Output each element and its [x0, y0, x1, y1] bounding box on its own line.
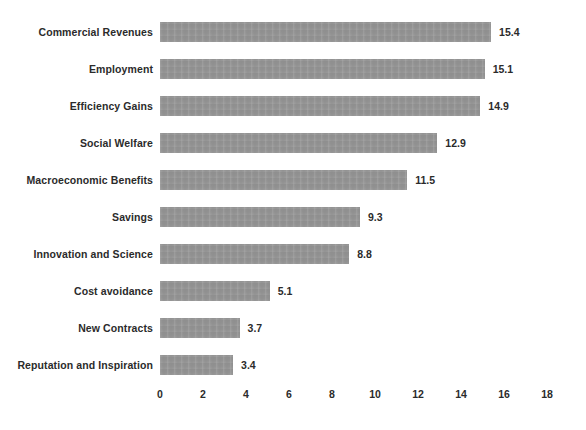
x-tick-label: 14 [455, 388, 467, 400]
x-tick-label: 16 [498, 388, 510, 400]
chart-row: Employment15.1 [0, 59, 586, 79]
chart-row: Cost avoidance5.1 [0, 281, 586, 301]
bar-texture [160, 96, 480, 116]
category-label: Savings [0, 211, 153, 223]
category-label: Macroeconomic Benefits [0, 174, 153, 186]
bar-texture [160, 244, 349, 264]
x-tick-label: 18 [541, 388, 553, 400]
chart-row: Innovation and Science8.8 [0, 244, 586, 264]
value-label: 3.4 [241, 359, 256, 371]
bar [160, 22, 491, 42]
chart-row: Social Welfare12.9 [0, 133, 586, 153]
bar-chart: Commercial Revenues15.4Employment15.1Eff… [0, 0, 586, 430]
bar [160, 318, 240, 338]
x-tick-label: 6 [286, 388, 292, 400]
bar [160, 244, 349, 264]
value-label: 15.1 [493, 63, 513, 75]
bar-texture [160, 207, 360, 227]
category-label: Innovation and Science [0, 248, 153, 260]
category-label: Commercial Revenues [0, 26, 153, 38]
x-tick-label: 12 [412, 388, 424, 400]
bar [160, 59, 485, 79]
bar-texture [160, 170, 407, 190]
bar-texture [160, 133, 437, 153]
chart-row: Reputation and Inspiration3.4 [0, 355, 586, 375]
x-tick-label: 2 [200, 388, 206, 400]
value-label: 9.3 [368, 211, 383, 223]
bar [160, 133, 437, 153]
bar [160, 170, 407, 190]
x-tick-label: 0 [157, 388, 163, 400]
category-label: Employment [0, 63, 153, 75]
value-label: 12.9 [445, 137, 465, 149]
chart-row: Macroeconomic Benefits11.5 [0, 170, 586, 190]
category-label: New Contracts [0, 322, 153, 334]
bar [160, 355, 233, 375]
category-label: Efficiency Gains [0, 100, 153, 112]
bar-texture [160, 318, 240, 338]
bar-texture [160, 59, 485, 79]
category-label: Reputation and Inspiration [0, 359, 153, 371]
x-tick-label: 10 [369, 388, 381, 400]
bar [160, 281, 270, 301]
bar [160, 96, 480, 116]
chart-row: Efficiency Gains14.9 [0, 96, 586, 116]
bar-texture [160, 281, 270, 301]
chart-plot-area: Commercial Revenues15.4Employment15.1Eff… [0, 0, 586, 385]
x-axis: 024681012141618 [0, 388, 586, 406]
category-label: Social Welfare [0, 137, 153, 149]
chart-row: Savings9.3 [0, 207, 586, 227]
chart-row: New Contracts3.7 [0, 318, 586, 338]
value-label: 3.7 [248, 322, 263, 334]
bar-texture [160, 22, 491, 42]
x-tick-label: 4 [243, 388, 249, 400]
value-label: 15.4 [499, 26, 519, 38]
value-label: 5.1 [278, 285, 293, 297]
x-tick-label: 8 [329, 388, 335, 400]
value-label: 14.9 [488, 100, 508, 112]
chart-row: Commercial Revenues15.4 [0, 22, 586, 42]
bar-texture [160, 355, 233, 375]
value-label: 8.8 [357, 248, 372, 260]
bar [160, 207, 360, 227]
value-label: 11.5 [415, 174, 435, 186]
category-label: Cost avoidance [0, 285, 153, 297]
